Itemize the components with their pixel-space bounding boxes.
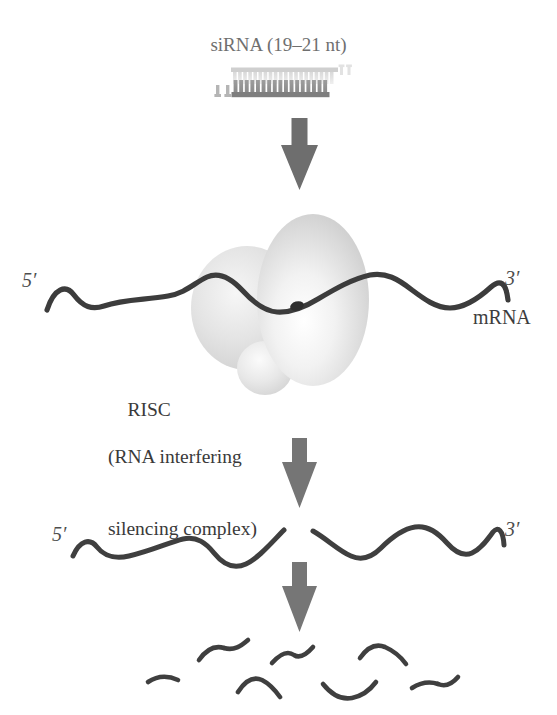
mrna-label: mRNA [473, 305, 531, 329]
five-prime-label-cleaved: 5′ [52, 522, 66, 546]
mrna-cleaved-right [313, 527, 504, 558]
arrow-sirna-to-risc [281, 118, 318, 190]
sirna-strand-sense [231, 68, 338, 85]
sirna-overhang-right [339, 65, 352, 76]
rnai-mechanism-figure: siRNA (19–21 nt) 5′ 3′ mRNA RISC (RNA in… [0, 0, 557, 715]
mrna-degraded-fragments [148, 640, 458, 698]
sirna-title-label: siRNA (19–21 nt) [0, 33, 557, 56]
risc-lobe-rear [191, 246, 303, 370]
fragment [412, 683, 438, 688]
arrow-cleavage-to-degradation [282, 562, 317, 632]
sirna-overhang-left [214, 85, 231, 97]
risc-complex [191, 214, 369, 395]
fragment [199, 647, 224, 660]
fragment [272, 647, 313, 663]
mrna-strand-intact [47, 274, 508, 312]
sirna-strand-antisense [232, 80, 330, 97]
risc-label-line3: silencing complex) [108, 517, 257, 541]
figure-artwork [0, 0, 557, 715]
arrow-risc-to-cleavage [282, 438, 317, 508]
fragment [360, 646, 406, 664]
fragment [238, 679, 280, 697]
risc-lobe-main [257, 214, 369, 386]
three-prime-label-top: 3′ [505, 266, 519, 290]
fragment [148, 677, 178, 682]
risc-label-line1: RISC [128, 399, 171, 420]
five-prime-label-top: 5′ [22, 268, 36, 292]
fragment [323, 682, 376, 698]
fragment [438, 677, 458, 685]
risc-label-line2: (RNA interfering [108, 445, 257, 469]
risc-label-block: RISC (RNA interfering silencing complex) [108, 374, 257, 588]
sirna-duplex [214, 65, 352, 98]
fragment [224, 640, 248, 649]
cleavage-site-marker [289, 300, 305, 313]
three-prime-label-cleaved: 3′ [505, 517, 519, 541]
